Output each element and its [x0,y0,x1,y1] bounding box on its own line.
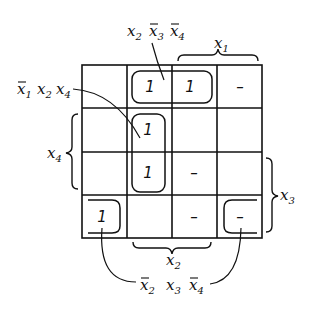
leader-g3-left [102,228,136,282]
label-group-x2bar-x3-x4bar: x2 x3 x4 [140,276,204,296]
svg-text:x4: x4 [170,22,185,42]
svg-text:x2: x2 [140,276,155,296]
svg-text:x3: x3 [149,22,164,42]
cell-r0-c1: 1 [145,78,155,96]
leader-g3-right [210,228,241,284]
svg-text:x1: x1 [17,80,32,100]
cell-r2-c1: 1 [143,164,153,182]
label-group-x1bar-x2-x4: x1 x2 x4 [17,80,71,100]
cell-r3-c3: – [236,208,244,226]
leader-g1 [152,43,164,80]
brace-x3 [266,158,278,232]
svg-text:x3: x3 [166,276,181,296]
karnaugh-map-diagram: 1 1 – 1 1 – 1 – – x1 x4 [0,0,314,312]
cell-r3-c0: 1 [97,208,107,226]
label-x3: x3 [280,186,295,206]
cell-r0-c2: 1 [185,78,195,96]
label-x4: x4 [47,144,62,164]
svg-text:x4: x4 [189,276,204,296]
label-group-x2-x3bar-x4bar: x2 x3 x4 [127,22,185,42]
leader-g2 [73,89,140,138]
label-x2: x2 [166,251,181,271]
cell-r1-c1: 1 [143,121,153,139]
svg-text:x4: x4 [56,80,71,100]
cell-r2-c2: – [190,164,198,182]
cell-r3-c2: – [190,208,198,226]
brace-x4 [66,114,78,189]
kmap-grid [82,65,262,238]
svg-text:x2: x2 [127,22,142,42]
svg-text:x2: x2 [37,80,52,100]
label-x1: x1 [214,34,229,54]
cell-r0-c3: – [236,78,244,96]
